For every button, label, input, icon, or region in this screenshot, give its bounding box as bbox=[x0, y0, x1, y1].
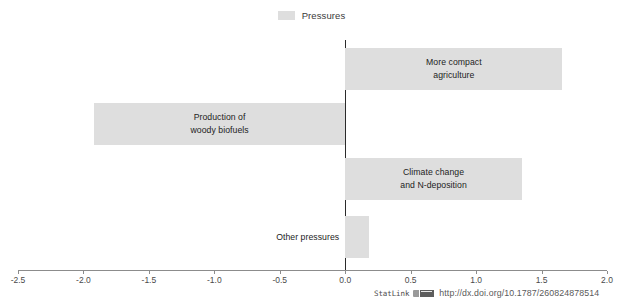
bar-label-more-compact-agriculture: More compact agriculture bbox=[345, 56, 562, 81]
legend-label-pressures: Pressures bbox=[302, 10, 346, 21]
x-axis-tick-mark bbox=[411, 271, 412, 274]
bar-label-climate-change-n-deposition: Climate change and N-deposition bbox=[345, 166, 522, 191]
x-axis-tick-mark bbox=[18, 271, 19, 274]
statlink-barcode-icon bbox=[413, 290, 435, 297]
x-axis-line bbox=[18, 270, 607, 271]
plot-area: More compact agriculture Production of w… bbox=[0, 35, 623, 270]
x-axis-tick-mark bbox=[476, 271, 477, 274]
x-axis-tick-label: 1.0 bbox=[470, 275, 482, 285]
bar-label-other-pressures: Other pressures bbox=[235, 231, 339, 244]
statlink-footer: StatLink http://dx.doi.org/10.1787/26082… bbox=[374, 288, 599, 298]
x-axis-tick-label: -2.5 bbox=[11, 275, 26, 285]
x-axis-tick-mark bbox=[149, 271, 150, 274]
x-axis-tick-label: 0.0 bbox=[339, 275, 351, 285]
x-axis-tick-mark bbox=[542, 271, 543, 274]
x-axis-tick-label: -2.0 bbox=[76, 275, 91, 285]
bar-other-pressures[interactable] bbox=[345, 216, 369, 258]
x-axis-tick-mark bbox=[345, 271, 346, 274]
x-axis-tick-label: -1.0 bbox=[207, 275, 222, 285]
x-axis-tick-mark bbox=[607, 271, 608, 274]
chart-legend: Pressures bbox=[0, 10, 623, 21]
x-axis-tick-mark bbox=[280, 271, 281, 274]
statlink-url[interactable]: http://dx.doi.org/10.1787/260824878514 bbox=[439, 288, 599, 298]
x-axis-tick-label: 1.5 bbox=[536, 275, 548, 285]
statlink-label: StatLink bbox=[374, 289, 409, 298]
x-axis-tick-label: -1.5 bbox=[142, 275, 157, 285]
x-axis-tick-label: 2.0 bbox=[601, 275, 613, 285]
legend-swatch bbox=[278, 11, 295, 20]
x-axis-tick-label: -0.5 bbox=[272, 275, 287, 285]
x-axis-tick-mark bbox=[83, 271, 84, 274]
x-axis-tick-mark bbox=[214, 271, 215, 274]
x-axis-tick-label: 0.5 bbox=[405, 275, 417, 285]
bar-label-production-woody-biofuels: Production of woody biofuels bbox=[94, 111, 345, 136]
